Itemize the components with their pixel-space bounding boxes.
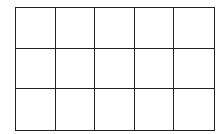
grid-cell [56, 8, 96, 49]
grid-cell [56, 49, 96, 90]
grid-cell [95, 8, 135, 49]
grid-cell [174, 49, 214, 90]
grid-cell [16, 89, 56, 130]
grid-cell [135, 8, 175, 49]
grid-cell [174, 89, 214, 130]
grid-cell [95, 49, 135, 90]
grid-diagram [15, 7, 215, 131]
grid-cell [174, 8, 214, 49]
grid-cell [16, 49, 56, 90]
grid-cell [56, 89, 96, 130]
grid-cell [95, 89, 135, 130]
grid-cell [135, 49, 175, 90]
grid-cell [16, 8, 56, 49]
grid-cell [135, 89, 175, 130]
